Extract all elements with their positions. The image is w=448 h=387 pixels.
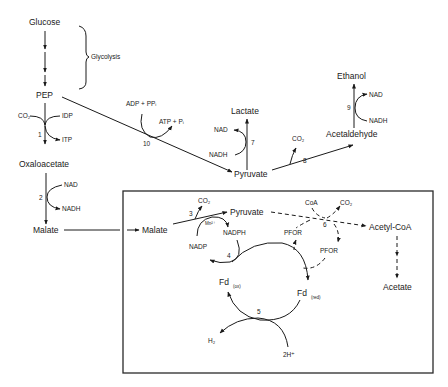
reaction-5-number: 5 (257, 308, 261, 315)
ethanol-label: Ethanol (337, 71, 366, 81)
r7-nad: NAD (214, 126, 228, 133)
r8-co2: CO₂ (292, 135, 305, 142)
r7-cofactor-arc (234, 130, 246, 155)
r5-h2: H₂ (208, 337, 216, 344)
r6-co2: CO₂ (340, 199, 353, 206)
reaction-10-number: 10 (143, 140, 151, 147)
r3-co2-out (195, 206, 202, 219)
reaction-2-number: 2 (39, 194, 43, 201)
reaction-8-number: 8 (303, 157, 307, 164)
r8-co2-out (290, 148, 296, 164)
r9-nad: NAD (369, 91, 383, 98)
lactate-label: Lactate (231, 106, 259, 116)
reaction-7-number: 7 (251, 139, 255, 146)
r5-2h: 2H⁺ (283, 351, 295, 358)
r3-mn: Mn²⁺ (205, 221, 216, 226)
pathway-svg: Glucose Glycolysis PEP CO₂ IDP ITP 1 Oxa… (0, 0, 448, 387)
r9-nadh: NADH (369, 117, 388, 124)
r2-nad: NAD (64, 181, 78, 188)
r6-co2-out (327, 206, 340, 218)
malate-inner-label: Malate (142, 225, 168, 235)
r6-coa: CoA (305, 199, 318, 206)
r7-nadh: NADH (209, 151, 228, 158)
acetate-label: Acetate (383, 282, 412, 292)
reaction-8-arrow (272, 145, 353, 170)
glycolysis-brace (79, 26, 89, 89)
r6-pfor-right: PFOR (320, 247, 338, 254)
fd-oxidation-arc (228, 292, 300, 320)
fd-ox-label: Fd (219, 277, 229, 287)
acetaldehyde-label: Acetaldehyde (326, 129, 378, 139)
r2-nadh: NADH (62, 205, 81, 212)
r1-itp: ITP (62, 136, 72, 143)
r6-pfor-left: PFOR (284, 229, 302, 236)
r3-nadp: NADP (189, 243, 207, 250)
r2-nad-in (47, 185, 62, 197)
fd-reduction-arc (232, 243, 308, 280)
r3-co2: CO₂ (198, 197, 211, 204)
acetyl-coa-label: Acetyl-CoA (369, 222, 412, 232)
r6-pfor-right-arrow (334, 224, 339, 242)
reaction-6-arrow (271, 212, 366, 226)
r10-out: ATP + Pᵢ (159, 118, 184, 125)
r9-cofactor-arc (355, 94, 367, 121)
fd-red-subscript: (red) (311, 295, 321, 300)
r1-idp: IDP (62, 112, 73, 119)
malate-outer-label: Malate (33, 225, 59, 235)
r10-in: ADP + PPᵢ (126, 100, 156, 107)
r1-co2-in (30, 116, 45, 125)
reaction-9-number: 9 (347, 104, 351, 111)
reaction-3-number: 3 (189, 210, 193, 217)
reaction-3-arrow (173, 212, 227, 224)
glucose-label: Glucose (29, 17, 60, 27)
fd-ox-subscript: (ox) (233, 284, 241, 289)
glycolysis-label: Glycolysis (91, 53, 121, 61)
r6-coa-in (312, 208, 325, 218)
r3-nadph: NADPH (223, 229, 246, 236)
pathway-diagram: Glucose Glycolysis PEP CO₂ IDP ITP 1 Oxa… (0, 0, 448, 387)
r1-co2: CO₂ (18, 112, 31, 119)
pyruvate-inner-label: Pyruvate (230, 207, 264, 217)
r1-itp-out (45, 126, 60, 140)
r5-h2-arc (220, 318, 288, 347)
fd-red-label: Fd (297, 288, 307, 298)
reaction-6-number: 6 (323, 221, 327, 228)
r6-pfor-left-link (296, 220, 310, 228)
r2-nadh-out (47, 197, 60, 209)
reaction-4-number: 4 (227, 252, 231, 259)
r1-idp-in (45, 116, 60, 125)
oxaloacetate-label: Oxaloacetate (19, 159, 69, 169)
reaction-1-number: 1 (38, 131, 42, 138)
pyruvate-outer-label: Pyruvate (234, 169, 268, 179)
pep-label: PEP (36, 90, 53, 100)
